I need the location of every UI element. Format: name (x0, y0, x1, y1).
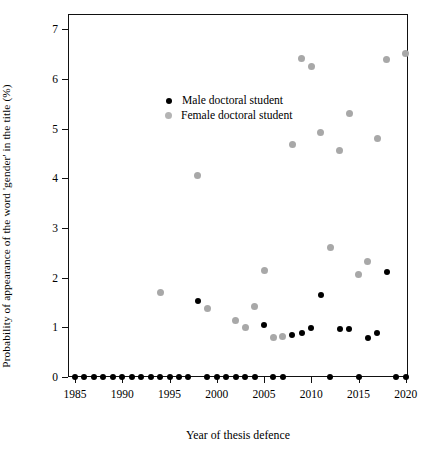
data-point-female (336, 147, 343, 154)
y-tick-label: 1 (40, 322, 58, 332)
data-point-male (308, 325, 314, 331)
legend-label-male: Male doctoral student (182, 94, 283, 107)
y-tick-label: 6 (40, 74, 58, 84)
data-point-male (185, 374, 191, 380)
data-point-male (337, 326, 343, 332)
data-point-male (299, 330, 305, 336)
data-point-male (176, 374, 182, 380)
y-tick-label: 4 (40, 173, 58, 183)
data-point-female (242, 324, 249, 331)
y-tick-label: 5 (40, 124, 58, 134)
data-point-male (100, 374, 106, 380)
data-point-male (233, 374, 239, 380)
scatter-plot-figure: Probability of appearance of the word 'g… (0, 0, 431, 452)
data-point-female (194, 172, 201, 179)
data-point-female (374, 135, 381, 142)
data-point-female (251, 303, 258, 310)
data-point-male (167, 374, 173, 380)
y-tick-label: 7 (40, 24, 58, 34)
data-point-male (280, 374, 286, 380)
legend-label-female: Female doctoral student (181, 109, 292, 122)
data-point-female (261, 267, 268, 274)
data-point-female (289, 141, 296, 148)
x-tick-label: 2020 (385, 388, 427, 400)
data-point-female (298, 55, 305, 62)
x-axis-label: Year of thesis defence (68, 428, 408, 443)
data-point-male (318, 292, 324, 298)
data-point-female (317, 129, 324, 136)
legend-item-female: Female doctoral student (165, 108, 292, 123)
data-point-female (364, 258, 371, 265)
data-point-male (270, 374, 276, 380)
y-tick-label: 2 (40, 273, 58, 283)
data-point-male (374, 330, 380, 336)
y-tick-mark (62, 377, 68, 378)
x-tick-label: 2010 (290, 388, 332, 400)
data-point-female (346, 110, 353, 117)
data-point-female (232, 317, 239, 324)
data-point-male (119, 374, 125, 380)
data-point-male (403, 374, 409, 380)
x-tick-label: 2000 (196, 388, 238, 400)
x-tick-label: 1990 (101, 388, 143, 400)
data-point-male (289, 332, 295, 338)
data-point-male (204, 374, 210, 380)
data-point-male (393, 374, 399, 380)
data-point-male (384, 269, 390, 275)
x-tick-mark (311, 377, 312, 383)
data-point-male (356, 374, 362, 380)
data-point-male (365, 335, 371, 341)
data-point-male (195, 298, 201, 304)
plot-area: Male doctoral student Female doctoral st… (68, 14, 408, 377)
data-point-male (110, 374, 116, 380)
chart-legend: Male doctoral student Female doctoral st… (165, 93, 292, 123)
x-tick-mark (264, 377, 265, 383)
y-tick-label: 0 (40, 372, 58, 382)
data-point-female (402, 50, 409, 57)
data-point-female (327, 244, 334, 251)
data-point-female (308, 63, 315, 70)
data-point-male (214, 374, 220, 380)
y-axis-label: Probability of appearance of the word 'g… (0, 0, 18, 452)
data-point-male (252, 374, 258, 380)
data-point-male (129, 374, 135, 380)
data-point-male (346, 326, 352, 332)
data-point-female (279, 333, 286, 340)
data-point-male (72, 374, 78, 380)
x-tick-label: 2005 (243, 388, 285, 400)
x-tick-label: 2015 (338, 388, 380, 400)
y-tick-label: 3 (40, 223, 58, 233)
data-point-female (383, 56, 390, 63)
data-point-male (138, 374, 144, 380)
data-point-male (327, 374, 333, 380)
female-dot-marker-icon (165, 112, 172, 119)
data-point-male (157, 374, 163, 380)
data-point-female (355, 271, 362, 278)
data-point-male (223, 374, 229, 380)
data-point-male (261, 322, 267, 328)
data-point-male (148, 374, 154, 380)
x-tick-label: 1995 (149, 388, 191, 400)
data-point-female (204, 305, 211, 312)
data-point-male (242, 374, 248, 380)
data-point-female (270, 334, 277, 341)
data-point-male (81, 374, 87, 380)
male-dot-marker-icon (166, 98, 172, 104)
legend-item-male: Male doctoral student (165, 93, 292, 108)
data-point-female (157, 289, 164, 296)
x-tick-label: 1985 (54, 388, 96, 400)
data-point-male (91, 374, 97, 380)
